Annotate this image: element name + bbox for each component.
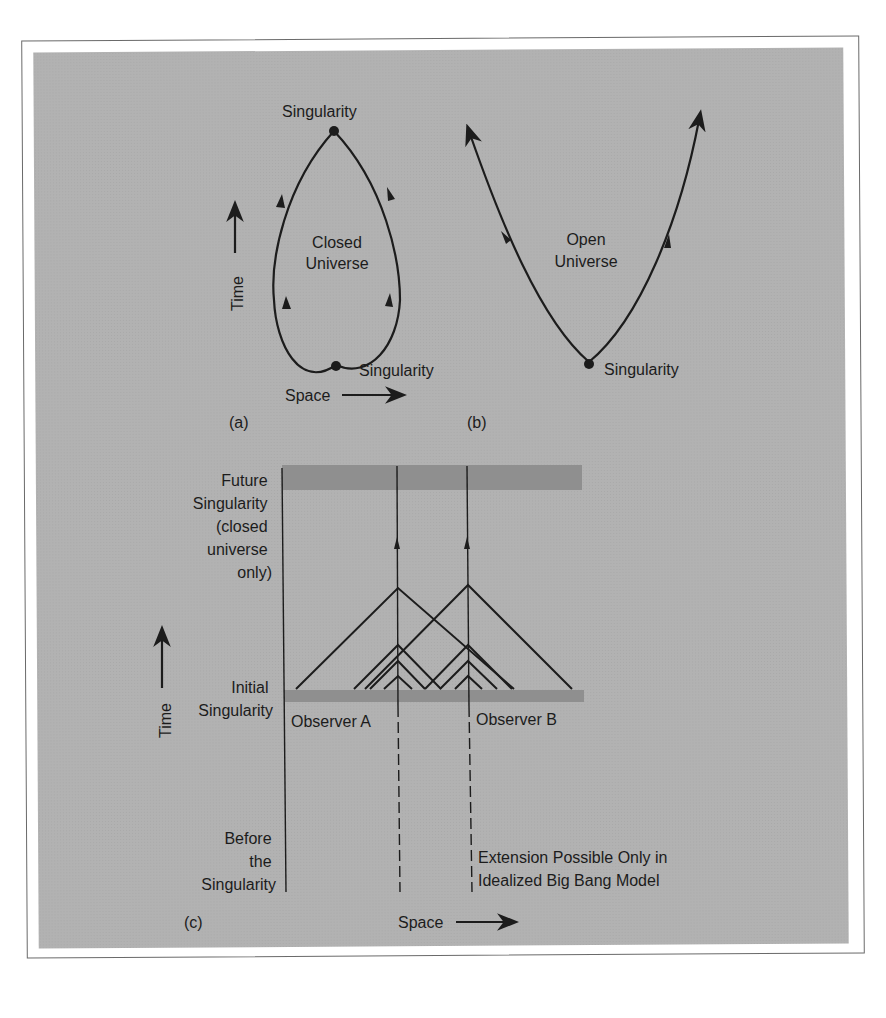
label-singularity-top: Singularity xyxy=(282,103,357,120)
label-before-singularity: Before the Singularity xyxy=(201,830,276,893)
closed-universe-left-worldline xyxy=(273,131,336,372)
space-axis-label-a: Space xyxy=(285,387,330,404)
singularity-dot xyxy=(584,359,594,369)
label-future-singularity: Future Singularity (closed universe only… xyxy=(193,472,272,581)
label-singularity-bottom: Singularity xyxy=(359,362,434,379)
arrow-icon xyxy=(276,194,285,208)
label-extension-line1: Extension Possible Only in xyxy=(478,849,667,866)
label-initial-singularity: Initial Singularity xyxy=(198,679,273,719)
singularity-dot-bottom xyxy=(331,361,341,371)
time-axis-label-a: Time xyxy=(229,276,246,311)
label-open: Open xyxy=(566,231,605,248)
panel-b-label: (b) xyxy=(467,414,487,431)
arrow-icon xyxy=(387,187,395,201)
panel-b-open-universe: Singularity Open Universe (b) xyxy=(467,120,699,431)
open-universe-left-worldline xyxy=(470,134,589,362)
left-boundary-line xyxy=(282,468,286,892)
observer-a-worldline xyxy=(397,466,398,706)
cosmology-diagram: Singularity Singularity Closed Universe … xyxy=(0,0,886,1018)
panel-a-closed-universe: Singularity Singularity Closed Universe … xyxy=(229,103,434,431)
time-axis-label-c: Time xyxy=(157,703,174,738)
panel-c-horizon-diagram: Future Singularity (closed universe only… xyxy=(157,465,667,931)
label-extension-line2: Idealized Big Bang Model xyxy=(478,872,659,889)
label-observer-b: Observer B xyxy=(476,711,557,728)
arrow-icon xyxy=(394,537,400,549)
arrow-icon xyxy=(464,537,470,549)
singularity-dot-top xyxy=(329,126,339,136)
arrow-icon xyxy=(385,293,393,307)
future-singularity-band xyxy=(282,465,582,490)
initial-singularity-band xyxy=(284,690,584,702)
label-universe-open: Universe xyxy=(554,253,617,270)
observer-a-extension xyxy=(398,706,400,892)
panel-a-label: (a) xyxy=(229,414,249,431)
space-axis-label-c: Space xyxy=(398,914,443,931)
panel-c-label: (c) xyxy=(184,914,203,931)
arrow-icon xyxy=(282,296,291,309)
observer-b-extension xyxy=(469,706,472,892)
label-observer-a: Observer A xyxy=(291,713,371,730)
label-closed: Closed xyxy=(312,234,362,251)
label-universe: Universe xyxy=(305,255,368,272)
label-singularity-open: Singularity xyxy=(604,361,679,378)
